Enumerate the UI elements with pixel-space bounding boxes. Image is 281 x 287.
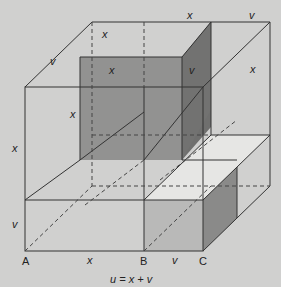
small-block-front-face xyxy=(144,200,203,251)
point-a-label: A xyxy=(22,255,30,267)
label-dark-side-x: x xyxy=(69,108,76,120)
label-bottom-v: v xyxy=(172,254,179,266)
label-back-x: x xyxy=(186,9,193,21)
label-left-x: x xyxy=(11,142,18,154)
point-c-label: C xyxy=(199,255,207,267)
cube-drawing: x v x v x x v x x v x v A B C u = x + v xyxy=(0,0,281,287)
cube-diagram: x v x v x x v x x v x v A B C u = x + v xyxy=(0,0,281,287)
label-bottom-x: x xyxy=(86,254,93,266)
dark-cube-front-face xyxy=(80,57,182,160)
label-dark-x: x xyxy=(108,64,115,76)
label-back-v: v xyxy=(249,9,256,21)
label-left-v: v xyxy=(12,218,19,230)
formula-label: u = x + v xyxy=(110,273,154,285)
label-right-x: x xyxy=(249,63,256,75)
label-top-x: x xyxy=(101,28,108,40)
point-b-label: B xyxy=(140,255,147,267)
